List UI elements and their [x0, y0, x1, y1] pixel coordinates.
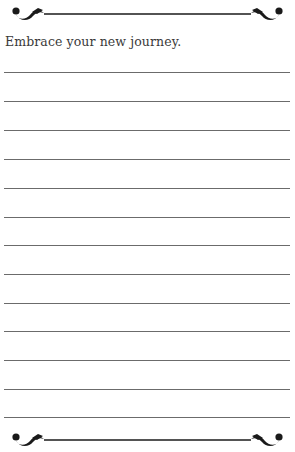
- writing-line-10[interactable]: [4, 331, 290, 332]
- bottom-flourish-divider-icon: [8, 429, 287, 449]
- writing-line-8[interactable]: [4, 274, 290, 275]
- writing-line-4[interactable]: [4, 159, 290, 160]
- writing-line-9[interactable]: [4, 303, 290, 304]
- journal-prompt: Embrace your new journey.: [5, 34, 181, 49]
- writing-line-12[interactable]: [4, 389, 290, 390]
- writing-line-7[interactable]: [4, 245, 290, 246]
- writing-line-13[interactable]: [4, 417, 290, 418]
- writing-line-1[interactable]: [4, 72, 290, 73]
- writing-line-5[interactable]: [4, 188, 290, 189]
- top-flourish-divider-icon: [8, 3, 287, 23]
- writing-line-2[interactable]: [4, 101, 290, 102]
- writing-line-6[interactable]: [4, 217, 290, 218]
- writing-line-3[interactable]: [4, 130, 290, 131]
- writing-line-11[interactable]: [4, 360, 290, 361]
